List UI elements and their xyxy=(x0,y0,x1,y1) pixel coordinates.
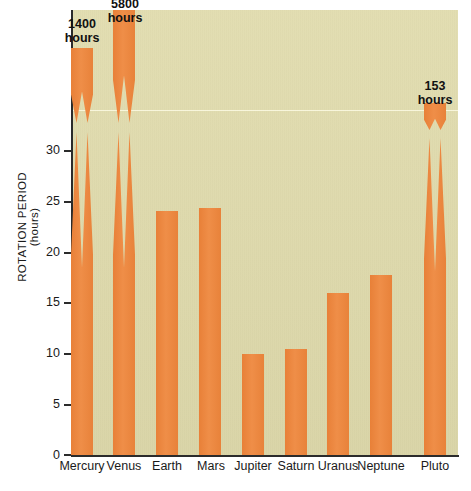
y-axis-title: ROTATION PERIOD (hours) xyxy=(16,127,40,327)
annotation-pluto: 153 hours xyxy=(394,80,471,107)
bar-jupiter xyxy=(242,354,264,455)
bar-neptune xyxy=(370,275,392,455)
annotation-venus-unit: hours xyxy=(84,12,166,26)
bar-uranus xyxy=(327,293,349,455)
bar-saturn xyxy=(285,349,307,455)
annotation-venus: 5800 hours xyxy=(84,0,166,25)
x-axis-line xyxy=(71,455,459,457)
annotation-venus-value: 5800 xyxy=(84,0,166,12)
y-tick-30 xyxy=(64,150,72,152)
x-label-pluto: Pluto xyxy=(409,459,461,473)
y-tick-15 xyxy=(64,302,72,304)
annotation-mercury-unit: hours xyxy=(41,32,123,46)
annotation-pluto-value: 153 xyxy=(394,80,471,94)
y-tick-label-10: 10 xyxy=(20,346,60,360)
x-label-neptune: Neptune xyxy=(348,459,414,473)
annotation-pluto-unit: hours xyxy=(394,94,471,108)
y-tick-0 xyxy=(64,454,72,456)
rotation-period-bar-chart: 0 5 10 15 20 25 30 ROTATION PERIOD (hour… xyxy=(0,0,471,491)
y-tick-20 xyxy=(64,252,72,254)
y-axis-title-line1: ROTATION PERIOD xyxy=(16,127,28,327)
y-tick-10 xyxy=(64,353,72,355)
y-tick-label-5: 5 xyxy=(20,397,60,411)
y-tick-5 xyxy=(64,404,72,406)
bar-mars xyxy=(199,208,221,455)
y-axis-title-line2: (hours) xyxy=(28,127,40,327)
y-tick-25 xyxy=(64,201,72,203)
bar-earth xyxy=(156,211,178,455)
